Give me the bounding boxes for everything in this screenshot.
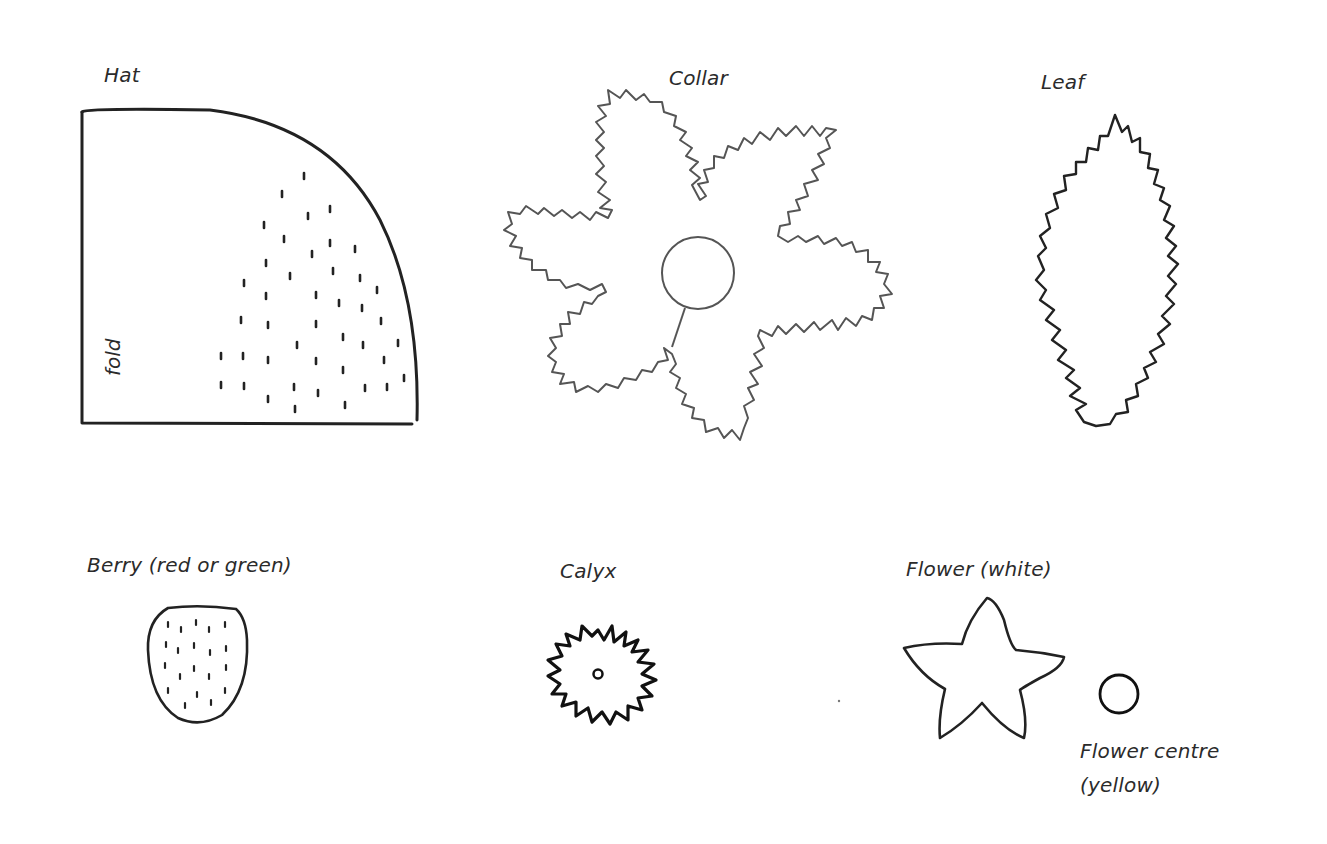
flower-centre-label-line1: Flower centre xyxy=(1080,739,1220,763)
template-drawings xyxy=(0,0,1327,844)
flower-label: Flower (white) xyxy=(906,557,1052,581)
collar-label: Collar xyxy=(669,66,728,90)
hat-template-icon xyxy=(82,109,417,424)
leaf-template-icon xyxy=(1036,115,1178,426)
stray-dot xyxy=(838,700,840,702)
collar-template-icon xyxy=(504,90,892,440)
berry-template-icon xyxy=(148,606,247,722)
calyx-label: Calyx xyxy=(560,559,616,583)
flower-centre-template-icon xyxy=(1100,675,1138,713)
flower-template-icon xyxy=(904,598,1064,738)
berry-label: Berry (red or green) xyxy=(87,553,292,577)
hat-label: Hat xyxy=(104,63,140,87)
hat-fold-label: fold xyxy=(101,338,125,376)
flower-centre-label-line2: (yellow) xyxy=(1080,773,1161,797)
leaf-label: Leaf xyxy=(1041,70,1085,94)
calyx-template-icon xyxy=(548,626,656,724)
